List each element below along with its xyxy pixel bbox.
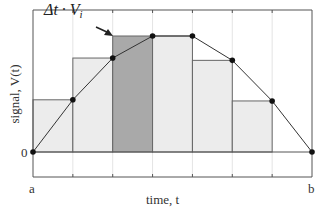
highlighted-bar [113,36,153,152]
data-point [110,55,116,61]
data-point [190,33,196,39]
bar [73,58,113,152]
x-axis-label: time, t [146,193,179,206]
data-point [70,97,76,103]
data-point [150,33,156,39]
riemann-chart [0,0,322,215]
bar [153,36,193,152]
data-point [269,98,275,104]
x-tick-b: b [308,182,315,195]
annotation-arrow-icon [96,27,113,36]
annotation-label: Δt · Vi [44,2,83,20]
x-tick-a: a [29,182,35,195]
bar [232,101,272,152]
y-tick-zero: 0 [21,146,28,159]
data-point [229,58,235,64]
data-point [309,149,315,155]
data-point [30,149,36,155]
bar [192,60,232,152]
y-axis-label: signal, V(t) [8,65,21,124]
bars [33,36,272,152]
